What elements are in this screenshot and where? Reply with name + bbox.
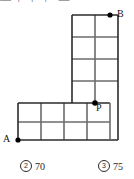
point-p-label: P (96, 103, 102, 113)
option-value-3: 75 (113, 161, 123, 172)
point-a-marker (15, 137, 20, 142)
lattice-path-figure: A B P (0, 0, 134, 155)
option-value-2: 70 (35, 161, 45, 172)
lattice-grid-svg (0, 0, 134, 155)
point-b-marker (107, 12, 112, 17)
point-b-label: B (117, 9, 124, 19)
answer-option-3[interactable]: 3 75 (98, 160, 123, 172)
point-a-label: A (3, 134, 10, 144)
vertical-block-grid (72, 15, 118, 103)
answer-options: 2 70 3 75 (0, 157, 134, 179)
option-marker-2: 2 (20, 160, 32, 172)
option-marker-3: 3 (98, 160, 110, 172)
answer-option-2[interactable]: 2 70 (20, 160, 45, 172)
